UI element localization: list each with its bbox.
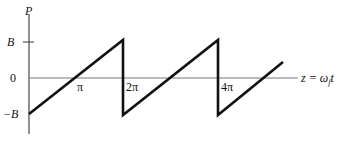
x-axis-label: z = ωft: [301, 72, 334, 89]
y-tick-0: 0: [10, 72, 16, 84]
sawtooth-diagram: [0, 0, 341, 142]
y-tick-b: B: [7, 36, 14, 48]
y-tick-neg-b: −B: [3, 108, 18, 120]
x-tick-2pi: 2π: [126, 81, 138, 93]
x-tick-pi: π: [77, 81, 83, 93]
y-axis-label: P: [25, 5, 32, 17]
x-tick-4pi: 4π: [221, 81, 233, 93]
